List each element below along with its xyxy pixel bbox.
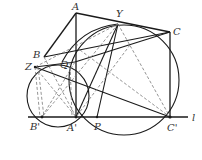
dashed-Y-Bprime (42, 24, 118, 117)
segment-Y-P (97, 24, 118, 117)
segment-A-C (76, 13, 170, 32)
label-Cprime: C' (167, 122, 177, 133)
label-A: A (71, 1, 79, 12)
point-Bprime (41, 116, 44, 119)
label-Y: Y (116, 8, 124, 19)
dashed-Y-Cprime (118, 24, 170, 117)
label-B: B (32, 49, 40, 60)
segment-A-B (44, 13, 76, 57)
geometry-figure: A Y C B Z Q B' A' P C' l (0, 0, 202, 160)
label-P: P (93, 121, 101, 132)
label-C: C (173, 26, 181, 37)
dashed-Q-Cprime (80, 50, 170, 117)
segment-Q-C (75, 32, 170, 62)
point-Cprime (168, 115, 171, 118)
point-Z (34, 66, 36, 68)
label-Z: Z (24, 61, 33, 72)
label-Bprime: B' (29, 121, 40, 132)
label-l: l (192, 112, 195, 123)
point-P (96, 116, 98, 118)
label-Q: Q (60, 59, 68, 70)
point-Aprime (75, 116, 78, 119)
segment-B-C (44, 32, 170, 57)
label-Aprime: A' (66, 122, 77, 133)
small-circle (27, 65, 89, 127)
segment-Z-Q (35, 62, 75, 67)
